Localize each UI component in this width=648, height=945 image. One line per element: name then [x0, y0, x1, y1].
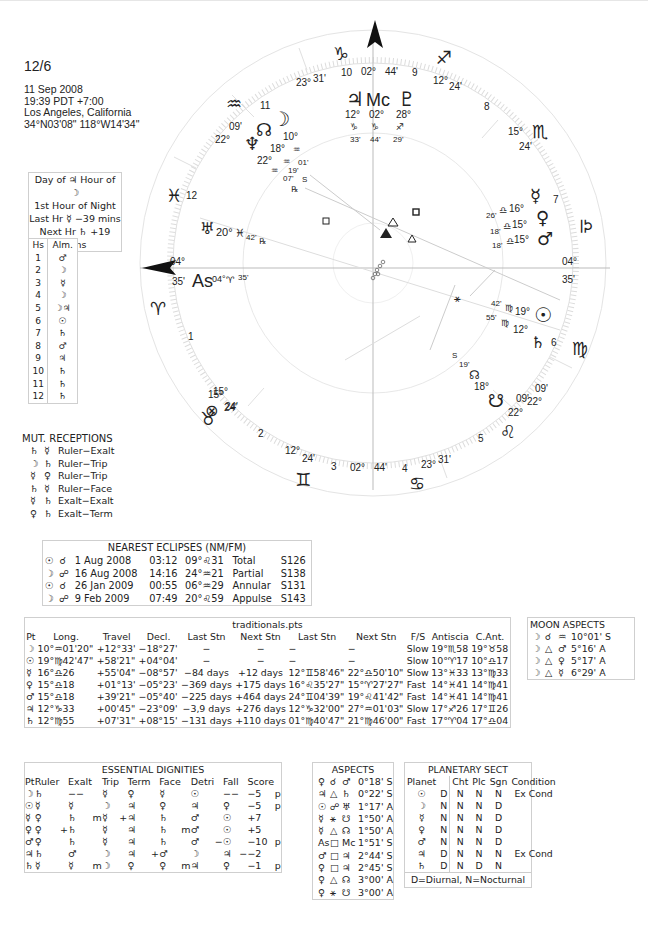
- wheel-label: 12°: [285, 445, 300, 456]
- wheel-label: 33': [350, 135, 361, 144]
- house-12: 12: [186, 190, 198, 201]
- house-5: 5: [478, 433, 484, 444]
- wheel-label: ♑: [350, 122, 358, 132]
- wheel-shape: [381, 260, 385, 264]
- sextile-marker: ⚹: [454, 292, 461, 305]
- wheel-label: 02°: [361, 66, 376, 77]
- wheel-label: 22°: [527, 396, 542, 407]
- mars-icon: ♂: [537, 228, 553, 249]
- wheel-label: 01': [298, 158, 309, 167]
- wheel-shape: [345, 316, 420, 360]
- wheel-label: 24': [302, 453, 315, 464]
- wheel-label: 15°: [514, 234, 529, 245]
- square-marker: [413, 209, 419, 215]
- wheel-label: ♒: [283, 157, 290, 166]
- mercury-icon: ☿: [530, 185, 541, 206]
- wheel-label: 31': [313, 73, 326, 84]
- south-node-icon: ☋: [488, 390, 504, 411]
- house-11: 11: [260, 100, 271, 111]
- house-6: 6: [551, 337, 557, 348]
- wheel-label: 18°: [474, 381, 489, 392]
- wheel-label: 18°: [270, 143, 285, 154]
- gemini-icon: ♊: [295, 470, 311, 490]
- planet-group-mc: ♃ Mc ♇ 12° 02° 28° ♑ ♑ ♐ 33' 44' 29': [345, 87, 416, 144]
- wheel-shape: [430, 285, 455, 350]
- wheel-label: 04°: [562, 256, 577, 267]
- wheel-label: 12°: [433, 75, 448, 86]
- wheel-label: 12°: [513, 324, 528, 335]
- planet-group-libra: ☿ ♀ ♂ 16° 15° 15° ♎ ♎ ♎ 26' 18' 18': [486, 185, 553, 250]
- wheel-label: ♎: [503, 221, 511, 231]
- wheel-label: 23°: [296, 77, 311, 88]
- planet-group-virgo: ☉ ♄ 19° 12° ♍ ♍ 42' 55': [486, 299, 552, 352]
- wheel-label: ♈: [226, 275, 235, 285]
- wheel-label: S: [452, 351, 457, 360]
- wheel-label: 18': [490, 227, 501, 236]
- wheel-label: 02°: [369, 109, 384, 120]
- house-3: 3: [331, 461, 337, 472]
- square-marker: [323, 218, 329, 224]
- capricorn-icon: ♑: [333, 44, 349, 64]
- planet-group-uranus: ♅ 20° ♓ 42' ℞: [200, 219, 266, 246]
- wheel-label: ℞: [259, 237, 266, 246]
- sun-icon: ☉: [534, 303, 552, 327]
- part-of-fortune-icon: ⊗: [205, 401, 218, 420]
- wheel-label: ♍: [501, 318, 509, 328]
- aquarius-icon: ♒: [226, 94, 242, 114]
- wheel-label: 10°: [283, 131, 298, 142]
- wheel-label: 24': [224, 402, 237, 413]
- wheel-label: 22°: [257, 155, 272, 166]
- wheel-shape: [470, 270, 495, 296]
- wheel-label: 31': [438, 454, 451, 465]
- wheel-label: 15°: [208, 389, 223, 400]
- wheel-label: 20°: [216, 226, 233, 238]
- venus-icon: ♀: [536, 207, 549, 228]
- wheel-label: 15°: [512, 219, 527, 230]
- sagittarius-icon: ♐: [436, 48, 452, 68]
- house-7: 7: [553, 194, 559, 205]
- mc-label: Mc: [366, 90, 390, 110]
- wheel-label: 28°: [396, 109, 411, 120]
- pluto-icon: ♇: [398, 87, 416, 111]
- node-icon: ☊: [469, 368, 480, 382]
- moon-icon: ☽: [272, 107, 290, 131]
- planet-group-nodes: ☊ 18° 19' S ☋ 22° 09': [452, 351, 529, 418]
- wheel-label: 07': [283, 174, 294, 183]
- scorpio-icon: ♏: [532, 122, 548, 142]
- wheel-label: ♎: [506, 236, 514, 246]
- wheel-label: 09': [516, 393, 529, 404]
- wheel-shape: [482, 120, 498, 138]
- wheel-label: ♍: [505, 303, 513, 313]
- pisces-icon: ♓: [166, 186, 182, 206]
- wheel-label: ℞: [291, 185, 298, 194]
- wheel-label: ♓: [235, 227, 245, 240]
- wheel-label: 42': [491, 299, 502, 308]
- wheel-label: 04°: [170, 256, 185, 267]
- house-1: 1: [188, 331, 194, 342]
- wheel-shape: [378, 264, 382, 268]
- wheel-shape: [248, 388, 264, 406]
- wheel-label: 55': [486, 313, 497, 322]
- uranus-icon: ♅: [200, 219, 214, 238]
- wheel-label: 18': [492, 241, 503, 250]
- wheel-shape: [299, 48, 307, 70]
- wheel-label: 19°: [515, 306, 530, 317]
- ascendant-label: As 04° ♈ 35': [192, 271, 249, 291]
- wheel-label: ♒: [293, 145, 300, 154]
- aries-icon: ♈: [150, 299, 166, 319]
- wheel-label: 44': [374, 462, 387, 473]
- wheel-shape: [550, 357, 572, 368]
- wheel-label: 19': [459, 360, 470, 369]
- wheel-label: 22°: [215, 134, 230, 145]
- wheel-label: S: [302, 175, 307, 184]
- wheel-label: 02°: [350, 462, 365, 473]
- planet-group-aquarius: ☽ ☊ ♆ 10° 18° 22° ♒ ♒ ♒ 01' 19' 07' S ℞: [244, 107, 309, 194]
- house-4: 4: [402, 463, 408, 474]
- wheel-label: 24': [449, 81, 462, 92]
- wheel-label: 44': [385, 66, 398, 77]
- wheel-label: 22°: [508, 407, 523, 418]
- wheel-label: 35': [562, 274, 575, 285]
- mc-arrow-icon: [367, 20, 383, 48]
- wheel-label: 09': [229, 121, 242, 132]
- wheel-label: 44': [370, 135, 381, 144]
